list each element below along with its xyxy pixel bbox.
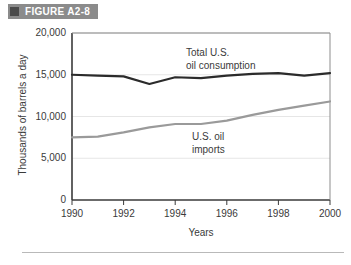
series-label-imports-line2: imports [192, 144, 225, 157]
page-divider [22, 252, 344, 253]
series-label-consumption-line1: Total U.S. [186, 47, 255, 60]
x-tick-1996: 1996 [205, 209, 249, 219]
series-label-imports-line1: U.S. oil [192, 131, 225, 144]
x-axis-title: Years [72, 228, 330, 238]
series-label-consumption-line2: oil consumption [186, 60, 255, 73]
x-tick-1990: 1990 [50, 209, 94, 219]
x-tick-1992: 1992 [102, 209, 146, 219]
chart-container: 20,000 15,000 10,000 5,000 0 1990 1992 1… [0, 0, 351, 265]
x-tick-1994: 1994 [153, 209, 197, 219]
y-axis-title: Thousands of barrels a day [18, 30, 28, 200]
series-label-consumption: Total U.S. oil consumption [186, 47, 255, 72]
line-chart [0, 0, 351, 265]
x-tick-1998: 1998 [256, 209, 300, 219]
series-label-imports: U.S. oil imports [192, 131, 225, 156]
x-tick-2000: 2000 [308, 209, 351, 219]
